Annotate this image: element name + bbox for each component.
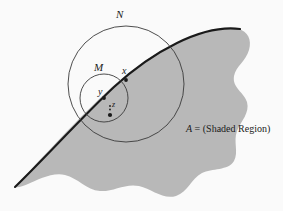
caption-description: (Shaded Region)	[203, 123, 271, 134]
math-diagram-figure: N M x y z A = (Shaded Region)	[0, 0, 283, 211]
point-marker-x	[124, 78, 128, 82]
shaded-region-a	[15, 28, 250, 196]
label-point-y: y	[98, 87, 102, 97]
caption-equals: =	[192, 123, 203, 134]
label-inner-circle-m: M	[94, 62, 103, 73]
diagram-canvas	[0, 0, 283, 211]
label-point-z: z	[112, 101, 115, 109]
point-marker-y	[102, 96, 106, 100]
shaded-region-caption: A = (Shaded Region)	[186, 124, 270, 134]
ellipsis-dot-upper	[109, 105, 111, 107]
point-marker-z	[108, 113, 112, 117]
label-point-x: x	[122, 66, 126, 76]
ellipsis-dot-middle	[109, 109, 111, 111]
label-outer-circle-n: N	[116, 9, 123, 20]
